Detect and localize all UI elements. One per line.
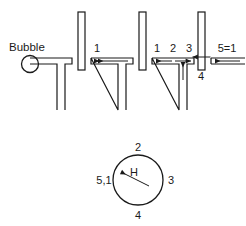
bubble-label: Bubble [9,41,45,53]
circle-label-left: 5,1 [96,174,111,186]
stage-4-label: 4 [198,70,204,82]
stage-5-group [211,58,245,64]
stage-123-tube [152,58,194,110]
stage-1-label-1: 1 [94,42,100,54]
stage-123-group [152,58,194,110]
circle-diagram-group [113,155,163,205]
separator-bar-2 [139,12,146,70]
stage-bubble-group [22,56,73,111]
stage-123-label-3: 3 [186,42,192,54]
separator-bar-3 [198,12,205,70]
stage-5-label: 5=1 [218,42,237,54]
stage-bubble-tube [30,58,72,110]
circle-label-top: 2 [135,141,141,153]
stage-123-label-2: 2 [170,42,176,54]
diagram-canvas: Bubble 1 1 2 3 4 [0,0,246,226]
separator-bar-1 [78,12,85,70]
stage-1-group [91,58,133,110]
stage-123-label-1: 1 [154,42,160,54]
stage-1-tube [91,58,133,110]
circle-label-h: H [130,166,138,178]
circle-label-bottom: 4 [135,209,141,221]
circle-label-right: 3 [168,174,174,186]
bubble-stroke-diagram: Bubble 1 1 2 3 4 [0,0,246,226]
